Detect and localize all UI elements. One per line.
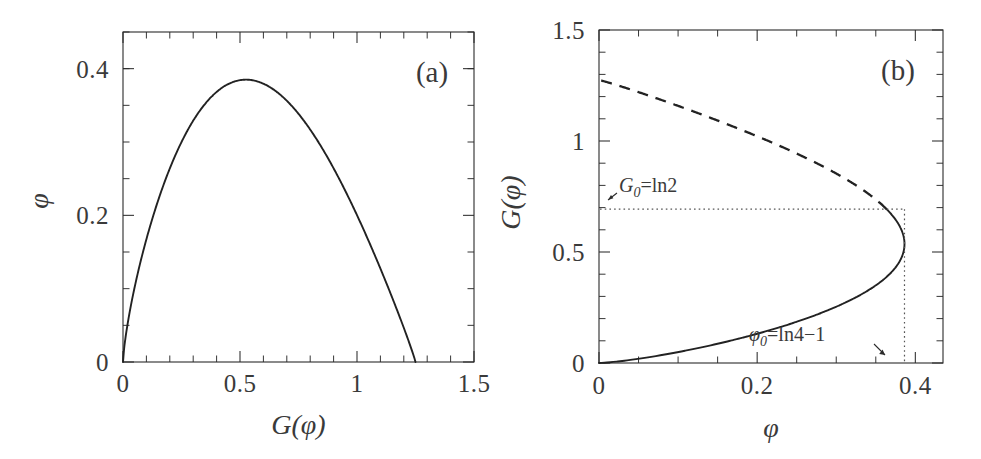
panel-b-ylabel: G(φ) [495,175,526,229]
annotation-G0-text: G0=ln2 [619,174,677,200]
y-tick-label: 0.5 [552,239,585,266]
panel-b-label: (b) [881,54,915,87]
y-tick-label: 0 [572,350,585,377]
y-tick-label: 1 [572,128,585,155]
panel-b: 00.20.400.511.5(b)G0=ln2φ0=ln4−1φG(φ) [0,0,981,459]
annotation-phi0: φ0=ln4−1 [749,323,885,355]
x-tick-label: 0.4 [899,372,932,399]
annotation-phi0-text: φ0=ln4−1 [749,323,825,349]
annotation-G0: G0=ln2 [608,174,677,200]
panel-b-xlabel: φ [763,412,779,443]
x-tick-label: 0.2 [741,372,774,399]
figure-root: 00.511.500.20.4(a)G(φ)φ 00.20.400.511.5(… [0,0,981,459]
y-tick-label: 1.5 [552,17,585,44]
x-tick-label: 0 [593,372,606,399]
